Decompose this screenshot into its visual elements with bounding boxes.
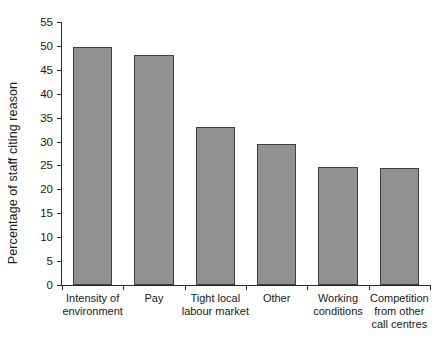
bar (318, 167, 357, 285)
y-tick-label: 55 (40, 16, 53, 28)
x-tick-mark (123, 285, 124, 290)
x-tick-mark (307, 285, 308, 290)
y-tick-label: 30 (40, 136, 53, 148)
category-label-line: labour market (177, 305, 253, 318)
y-tick-label: 50 (40, 40, 53, 52)
y-tick-mark (57, 261, 62, 262)
bar (196, 127, 235, 285)
y-axis-title: Percentage of staff citing reason (0, 0, 26, 346)
y-tick-mark (57, 118, 62, 119)
y-tick-mark (57, 70, 62, 71)
y-tick-mark (57, 213, 62, 214)
x-tick-mark (369, 285, 370, 290)
bar (73, 47, 112, 285)
y-tick-mark (57, 46, 62, 47)
plot-area: 0510152025303540455055 (62, 22, 430, 285)
x-tick-mark (62, 285, 63, 290)
y-tick-label: 5 (47, 255, 53, 267)
y-tick-mark (57, 237, 62, 238)
y-tick-mark (57, 142, 62, 143)
y-tick-label: 40 (40, 88, 53, 100)
category-label-line: Competition (361, 292, 437, 305)
bar-chart: Percentage of staff citing reason 051015… (0, 0, 442, 346)
bar (380, 168, 419, 285)
y-tick-label: 25 (40, 159, 53, 171)
x-tick-mark (185, 285, 186, 290)
y-tick-mark (57, 94, 62, 95)
category-label-line: environment (55, 305, 131, 318)
y-tick-mark (57, 165, 62, 166)
x-tick-mark (430, 285, 431, 290)
bar (257, 144, 296, 285)
y-tick-label: 15 (40, 207, 53, 219)
y-tick-label: 45 (40, 64, 53, 76)
bar (134, 55, 173, 285)
category-label: Competitionfrom othercall centres (361, 292, 437, 331)
y-tick-mark (57, 189, 62, 190)
y-tick-label: 10 (40, 231, 53, 243)
y-tick-label: 35 (40, 112, 53, 124)
y-tick-mark (57, 22, 62, 23)
category-label-line: from other (361, 305, 437, 318)
y-tick-label: 20 (40, 183, 53, 195)
category-label-line: call centres (361, 318, 437, 331)
y-tick-label: 0 (47, 279, 53, 291)
x-tick-mark (246, 285, 247, 290)
